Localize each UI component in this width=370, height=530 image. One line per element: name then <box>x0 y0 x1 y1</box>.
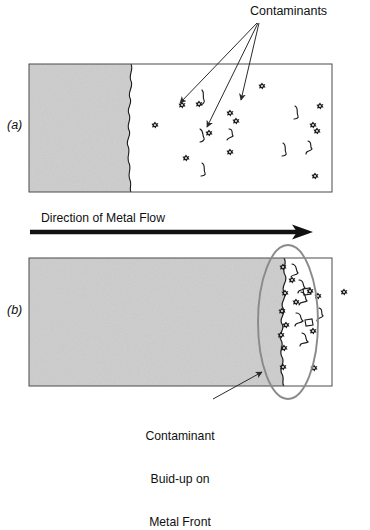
panel-b-tag: (b) <box>7 303 22 318</box>
panel-a-tag: (a) <box>7 118 22 133</box>
caption-line-1: Contaminant <box>118 429 242 443</box>
panel-a-filaments <box>200 90 312 176</box>
panel-b-metal-fill <box>29 258 286 386</box>
panel-a-particles <box>151 83 323 180</box>
contaminants-label: Contaminants <box>250 4 327 19</box>
caption-line-2: Buid-up on <box>118 472 242 486</box>
contaminants-pointer-arrows <box>180 23 259 127</box>
contaminant-buildup-caption: Contaminant Buid-up on Metal Front <box>118 400 242 530</box>
caption-line-3: Metal Front <box>118 515 242 529</box>
panel-a-metal-fill <box>29 64 132 192</box>
panel-b-group <box>29 245 348 399</box>
panel-a-group <box>29 23 332 192</box>
flow-arrow <box>30 225 313 240</box>
direction-of-metal-flow-label: Direction of Metal Flow <box>41 211 165 225</box>
